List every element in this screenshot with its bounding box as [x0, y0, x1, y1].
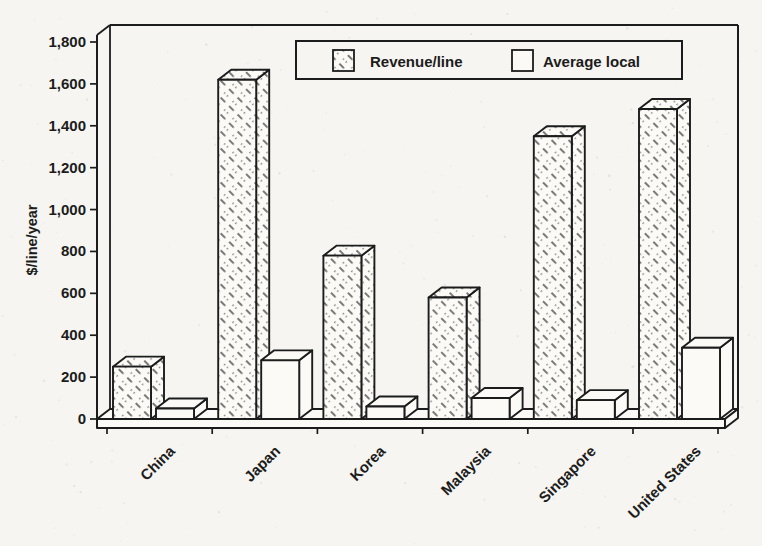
bar-average-local-united-states-side-fill	[720, 338, 733, 419]
speckle	[759, 216, 760, 217]
speckle	[632, 122, 634, 124]
speckle	[51, 440, 52, 441]
speckle	[438, 232, 439, 233]
speckle	[405, 146, 406, 147]
speckle	[191, 528, 192, 529]
speckle	[584, 526, 586, 528]
speckle	[214, 144, 216, 146]
speckle	[741, 286, 743, 288]
speckle	[59, 18, 61, 20]
speckle	[185, 99, 186, 100]
speckle	[450, 165, 451, 166]
speckle	[66, 464, 68, 466]
speckle	[122, 515, 123, 516]
speckle	[626, 27, 628, 29]
speckle	[520, 289, 522, 291]
speckle	[14, 354, 16, 356]
bar-revenue-line-japan-front-hatch	[218, 80, 256, 419]
y-tick-label: 1,000	[48, 201, 86, 218]
speckle	[504, 236, 506, 238]
speckle	[632, 366, 634, 368]
bar-revenue-line-singapore	[534, 126, 585, 419]
speckle	[603, 244, 605, 246]
speckle	[376, 18, 377, 19]
speckle	[618, 158, 619, 159]
speckle	[588, 268, 590, 270]
speckle	[354, 445, 356, 447]
speckle	[604, 496, 606, 498]
legend: Revenue/lineAverage local	[296, 41, 682, 79]
bar-average-local-japan	[261, 350, 312, 419]
speckle	[157, 84, 158, 85]
speckle	[80, 491, 82, 493]
speckle	[678, 501, 680, 503]
speckle	[286, 106, 287, 107]
speckle	[42, 119, 43, 120]
speckle	[458, 187, 459, 188]
speckle	[535, 466, 537, 468]
speckle	[214, 197, 216, 199]
speckle	[371, 228, 372, 229]
speckle	[59, 399, 61, 401]
speckle	[43, 223, 44, 224]
speckle	[50, 291, 51, 292]
bar-revenue-line-korea-front-hatch	[323, 256, 361, 419]
speckle	[506, 13, 508, 15]
speckle	[470, 33, 472, 35]
bar-revenue-line-singapore-front-hatch	[534, 136, 572, 419]
y-tick-label: 1,200	[48, 159, 86, 176]
legend-swatch-average-local	[512, 50, 533, 71]
speckle	[583, 493, 584, 494]
bar-revenue-line-china-front-hatch	[113, 367, 151, 419]
speckle	[199, 324, 200, 325]
speckle	[699, 65, 700, 66]
speckle	[55, 58, 56, 59]
speckle	[517, 335, 519, 337]
speckle	[153, 158, 155, 160]
speckle	[205, 44, 207, 46]
bar-average-local-japan-front-fill	[261, 360, 299, 419]
speckle	[707, 145, 709, 147]
speckle	[712, 98, 714, 100]
speckle	[56, 232, 57, 233]
x-label-singapore: Singapore	[535, 442, 599, 506]
y-tick-label: 200	[61, 368, 86, 385]
speckle	[65, 199, 66, 200]
y-axis: 02004006008001,0001,2001,4001,6001,800	[48, 33, 97, 428]
speckle	[441, 175, 442, 176]
speckle	[311, 430, 312, 431]
speckle	[31, 162, 32, 163]
bar-average-local-china	[156, 399, 207, 419]
speckle	[630, 109, 632, 111]
speckle	[721, 528, 722, 529]
speckle	[723, 511, 725, 513]
speckle	[736, 101, 737, 102]
speckle	[178, 461, 179, 462]
bar-average-local-united-states	[682, 338, 733, 419]
speckle	[332, 201, 333, 202]
speckle	[54, 527, 56, 529]
speckle	[349, 228, 350, 229]
speckle	[755, 265, 756, 266]
bar-revenue-line-united-states-front-hatch	[639, 109, 677, 419]
speckle	[348, 37, 350, 39]
x-label-japan: Japan	[241, 442, 284, 485]
speckle	[593, 174, 594, 175]
speckle	[404, 482, 406, 484]
speckle	[344, 154, 346, 156]
speckle	[20, 84, 22, 86]
x-axis-labels: ChinaJapanKoreaMalaysiaSingaporeUnited S…	[137, 442, 704, 522]
x-label-united-states: United States	[624, 442, 704, 522]
y-tick-label: 1,800	[48, 33, 86, 50]
speckle	[247, 62, 249, 64]
bar-average-local-malaysia-front-fill	[472, 398, 510, 419]
speckle	[326, 11, 327, 12]
speckle	[259, 59, 261, 61]
speckle	[167, 51, 168, 52]
speckle	[628, 325, 629, 326]
bar-revenue-line-malaysia-front-hatch	[429, 298, 467, 419]
speckle	[213, 136, 215, 138]
speckle	[271, 163, 272, 164]
speckle	[90, 461, 92, 463]
speckle	[124, 350, 126, 352]
